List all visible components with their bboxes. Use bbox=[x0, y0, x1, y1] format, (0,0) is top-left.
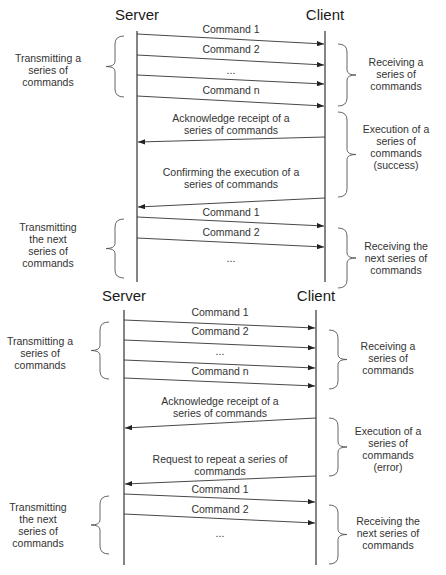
message-label: Acknowledge receipt of a bbox=[172, 112, 289, 124]
message-label: ... bbox=[216, 345, 225, 357]
right-annotation: Receiving a bbox=[369, 56, 424, 68]
message-label: ... bbox=[227, 64, 236, 76]
left-annotation: Transmitting a bbox=[7, 335, 73, 347]
right-annotation: commands bbox=[362, 539, 413, 551]
sequence-diagrams: ServerClientCommand 1Command 2...Command… bbox=[0, 0, 446, 575]
right-annotation: Execution of a bbox=[355, 425, 422, 437]
message-arrow bbox=[137, 75, 324, 84]
client-header: Client bbox=[297, 287, 336, 304]
right-annotation: commands bbox=[370, 264, 421, 276]
message-label: ... bbox=[227, 252, 236, 264]
message-label: Command 2 bbox=[191, 325, 248, 337]
right-annotation: series of bbox=[368, 352, 408, 364]
right-annotation: Receiving a bbox=[361, 340, 416, 352]
left-annotation: series of bbox=[18, 525, 58, 537]
message-label: Command 2 bbox=[202, 43, 259, 55]
right-brace bbox=[329, 330, 347, 389]
message-label: Command 2 bbox=[191, 503, 248, 515]
message-label: ... bbox=[216, 527, 225, 539]
message-label: Command n bbox=[191, 365, 248, 377]
message-label: Acknowledge receipt of a bbox=[161, 395, 278, 407]
left-annotation: the next bbox=[19, 513, 56, 525]
message-label: Command 1 bbox=[191, 306, 248, 318]
right-annotation: Receiving the bbox=[364, 240, 428, 252]
message-arrow bbox=[124, 378, 315, 386]
client-header: Client bbox=[306, 6, 345, 23]
message-label: Request to repeat a series of bbox=[153, 453, 288, 465]
left-annotation: Transmitting bbox=[9, 501, 67, 513]
message-arrow bbox=[137, 217, 324, 226]
right-annotation: (success) bbox=[374, 159, 419, 171]
diagram-success: ServerClientCommand 1Command 2...Command… bbox=[15, 6, 430, 288]
left-brace bbox=[91, 322, 109, 379]
message-arrow bbox=[137, 238, 324, 247]
left-brace bbox=[106, 36, 124, 97]
right-brace bbox=[329, 418, 347, 476]
left-annotation: commands bbox=[22, 76, 73, 88]
right-annotation: commands bbox=[370, 80, 421, 92]
right-brace bbox=[338, 112, 356, 197]
right-annotation: next series of bbox=[365, 252, 428, 264]
left-annotation: commands bbox=[22, 257, 73, 269]
message-label: commands bbox=[194, 465, 245, 477]
left-annotation: commands bbox=[14, 359, 65, 371]
message-label: Command 1 bbox=[202, 23, 259, 35]
message-arrow bbox=[125, 418, 316, 428]
message-label: Command n bbox=[202, 84, 259, 96]
diagram-error: ServerClientCommand 1Command 2...Command… bbox=[7, 287, 422, 565]
message-label: series of commands bbox=[184, 178, 278, 190]
right-annotation: commands bbox=[362, 364, 413, 376]
right-annotation: Receiving the bbox=[356, 515, 420, 527]
right-annotation: commands bbox=[362, 449, 413, 461]
message-arrow bbox=[124, 494, 315, 502]
right-brace bbox=[338, 44, 356, 106]
left-annotation: series of bbox=[20, 347, 60, 359]
message-label: Command 1 bbox=[202, 206, 259, 218]
message-label: series of commands bbox=[173, 407, 267, 419]
message-label: Command 2 bbox=[202, 226, 259, 238]
right-brace bbox=[338, 228, 356, 288]
left-brace bbox=[91, 496, 109, 554]
message-label: Confirming the execution of a bbox=[163, 166, 300, 178]
right-annotation: series of bbox=[376, 135, 416, 147]
left-annotation: commands bbox=[12, 537, 63, 549]
message-arrow bbox=[138, 137, 325, 142]
left-annotation: the next bbox=[29, 233, 66, 245]
right-brace bbox=[329, 505, 347, 564]
left-brace bbox=[106, 219, 124, 278]
message-label: series of commands bbox=[184, 124, 278, 136]
message-arrow bbox=[137, 96, 324, 106]
left-annotation: series of bbox=[28, 245, 68, 257]
server-header: Server bbox=[115, 6, 159, 23]
message-arrow bbox=[124, 514, 315, 523]
right-annotation: series of bbox=[368, 437, 408, 449]
left-annotation: Transmitting a bbox=[15, 52, 81, 64]
right-annotation: commands bbox=[370, 147, 421, 159]
right-annotation: next series of bbox=[357, 527, 420, 539]
message-label: Command 1 bbox=[191, 483, 248, 495]
right-annotation: Execution of a bbox=[363, 123, 430, 135]
right-annotation: series of bbox=[376, 68, 416, 80]
right-annotation: (error) bbox=[373, 461, 402, 473]
left-annotation: series of bbox=[28, 64, 68, 76]
left-annotation: Transmitting bbox=[19, 221, 77, 233]
server-header: Server bbox=[102, 287, 146, 304]
